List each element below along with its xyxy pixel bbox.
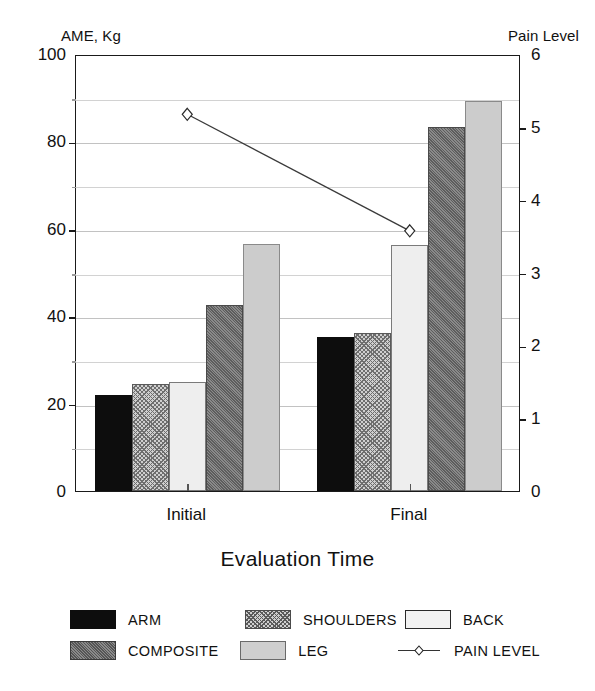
diamond-marker-icon xyxy=(396,641,442,660)
legend-item-shoulders[interactable]: SHOULDERS xyxy=(245,610,405,629)
legend-swatch-back xyxy=(405,610,451,629)
right-axis-label: Pain Level xyxy=(508,27,579,44)
right-tick-label: 5 xyxy=(531,119,540,136)
plot-area xyxy=(75,55,520,492)
x-tick-label-initial: Initial xyxy=(126,505,246,525)
legend-label-composite: COMPOSITE xyxy=(128,643,219,659)
pain-level-marker-initial xyxy=(182,108,192,120)
left-tick-label: 80 xyxy=(47,133,66,150)
pain-level-marker-final xyxy=(405,225,415,237)
left-tick-label: 60 xyxy=(47,221,66,238)
legend-row: ARM SHOULDERS BACK xyxy=(70,604,540,635)
legend-label-leg: LEG xyxy=(298,643,328,659)
legend-label-arm: ARM xyxy=(128,612,161,628)
right-tick-label: 3 xyxy=(531,265,540,282)
pain-level-line xyxy=(187,114,410,231)
right-tick-label: 1 xyxy=(531,410,540,427)
legend-swatch-shoulders xyxy=(245,610,291,629)
legend-row: COMPOSITE LEG PAIN LEVEL xyxy=(70,635,540,666)
left-tick-label: 100 xyxy=(38,46,66,63)
legend-swatch-painlevel xyxy=(396,641,442,660)
left-tick-label: 40 xyxy=(47,308,66,325)
legend-item-painlevel[interactable]: PAIN LEVEL xyxy=(396,641,540,660)
x-axis-title: Evaluation Time xyxy=(0,547,595,571)
legend-item-arm[interactable]: ARM xyxy=(70,610,245,629)
legend-item-back[interactable]: BACK xyxy=(405,610,540,629)
right-tick-label: 0 xyxy=(531,483,540,500)
axis-tick xyxy=(69,143,76,145)
legend-label-back: BACK xyxy=(463,612,504,628)
legend-swatch-leg xyxy=(240,641,286,660)
legend-swatch-composite xyxy=(70,641,116,660)
right-tick-label: 2 xyxy=(531,337,540,354)
legend-swatch-arm xyxy=(70,610,116,629)
left-tick-label: 0 xyxy=(57,483,66,500)
x-tick-label-final: Final xyxy=(349,505,469,525)
chart-legend: ARM SHOULDERS BACK COMPOSITE LEG xyxy=(70,604,540,666)
axis-tick xyxy=(69,405,76,407)
left-axis-label: AME, Kg xyxy=(61,27,121,44)
axis-tick xyxy=(69,230,76,232)
right-tick-label: 6 xyxy=(531,46,540,63)
legend-label-shoulders: SHOULDERS xyxy=(303,612,397,628)
legend-item-leg[interactable]: LEG xyxy=(240,641,396,660)
left-tick-label: 20 xyxy=(47,396,66,413)
pain-level-line-series xyxy=(76,56,521,493)
right-tick-label: 4 xyxy=(531,192,540,209)
legend-label-painlevel: PAIN LEVEL xyxy=(454,643,540,659)
axis-tick xyxy=(69,317,76,319)
legend-item-composite[interactable]: COMPOSITE xyxy=(70,641,240,660)
